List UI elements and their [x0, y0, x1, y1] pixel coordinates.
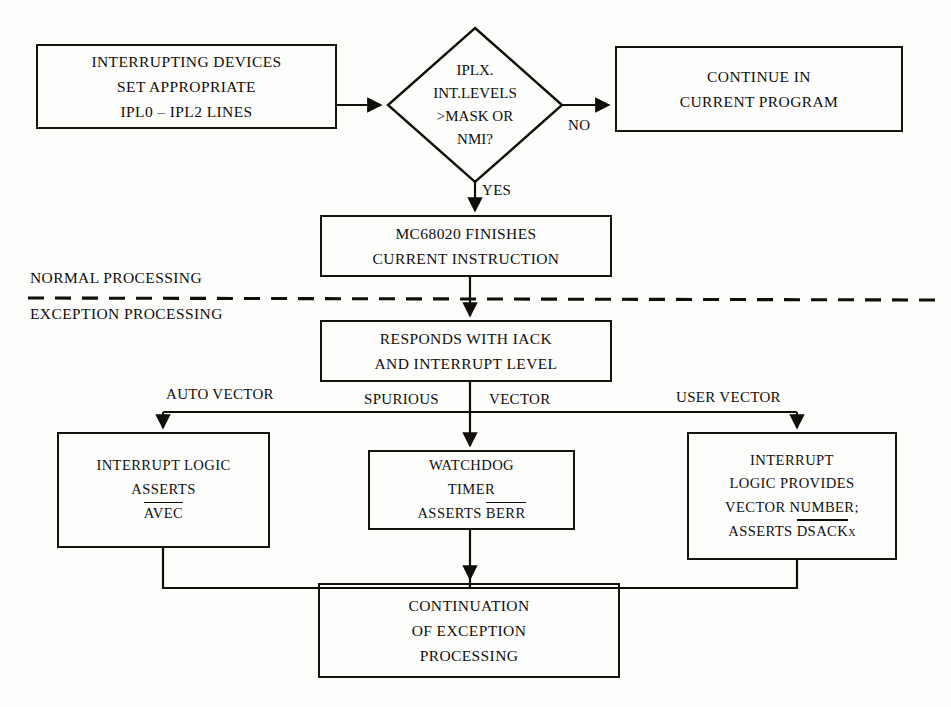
edge-label-yes: YES	[482, 182, 511, 199]
avec-overline-text: AVEC	[144, 501, 183, 525]
edge-label-user-vector: USER VECTOR	[676, 389, 781, 406]
node-line: CONTINUATION	[408, 593, 529, 618]
asserts-prefix: ASSERTS	[417, 505, 485, 521]
edge-label-vector: VECTOR	[489, 391, 551, 408]
node-line: MC68020 FINISHES	[395, 221, 536, 246]
edge-label-auto-vector: AUTO VECTOR	[166, 386, 274, 403]
node-decision-interrupt-level[interactable]: IPLX. INT.LEVELS >MASK OR NMI?	[388, 28, 562, 182]
node-line: INTERRUPT LOGIC	[96, 454, 230, 477]
node-interrupt-logic-provides-vector[interactable]: INTERRUPT LOGIC PROVIDES VECTOR NUMBER; …	[687, 432, 897, 560]
decision-label: IPLX. INT.LEVELS >MASK OR NMI?	[433, 59, 516, 150]
edge-label-spurious: SPURIOUS	[364, 391, 439, 408]
node-line: CURRENT INSTRUCTION	[373, 246, 560, 271]
node-continue-current-program[interactable]: CONTINUE IN CURRENT PROGRAM	[615, 46, 903, 132]
node-line: PROCESSING	[420, 643, 519, 668]
node-line: VECTOR NUMBER;	[725, 496, 859, 519]
node-line: OF EXCEPTION	[412, 618, 527, 643]
node-line: LOGIC PROVIDES	[729, 472, 854, 495]
node-line: INT.LEVELS	[433, 85, 516, 101]
node-line: INTERRUPTING DEVICES	[91, 49, 281, 74]
node-line: CURRENT PROGRAM	[680, 89, 839, 114]
node-line: NMI?	[457, 131, 493, 147]
node-line: IPLX.	[456, 62, 493, 78]
node-line: SET APPROPRIATE	[117, 74, 256, 99]
node-line: WATCHDOG	[429, 454, 514, 477]
node-line-overlined: AVEC	[144, 501, 183, 525]
zone-label-normal-processing: NORMAL PROCESSING	[30, 269, 202, 287]
node-line: ASSERTS	[131, 478, 195, 501]
zone-label-exception-processing: EXCEPTION PROCESSING	[30, 305, 223, 323]
node-interrupt-logic-asserts-avec[interactable]: INTERRUPT LOGIC ASSERTS AVEC	[57, 432, 270, 548]
node-line: INTERRUPT	[750, 449, 834, 472]
node-line: AND INTERRUPT LEVEL	[375, 351, 558, 376]
asserts-prefix: ASSERTS	[728, 523, 796, 539]
node-line: >MASK OR	[437, 108, 513, 124]
node-line: RESPONDS WITH IACK	[380, 326, 552, 351]
node-line: CONTINUE IN	[707, 64, 811, 89]
connector-auto-vector-to-merge	[163, 548, 470, 588]
node-interrupting-devices[interactable]: INTERRUPTING DEVICES SET APPROPRIATE IPL…	[36, 44, 337, 129]
node-line-overlined: ASSERTS BERR	[417, 501, 525, 525]
node-mc68020-finishes-instruction[interactable]: MC68020 FINISHES CURRENT INSTRUCTION	[320, 215, 612, 277]
dsack-overline-text: DSACK	[797, 519, 848, 543]
node-watchdog-timer-asserts-berr[interactable]: WATCHDOG TIMER ASSERTS BERR	[368, 450, 575, 530]
berr-overline-text: BERR	[486, 501, 526, 525]
dsack-suffix: x	[848, 523, 856, 539]
node-line: IPL0 – IPL2 LINES	[120, 99, 252, 124]
node-line-overlined: ASSERTS DSACKx	[728, 519, 856, 543]
edge-label-no: NO	[568, 117, 590, 134]
node-line: TIMER	[448, 478, 495, 501]
node-responds-with-iack[interactable]: RESPONDS WITH IACK AND INTERRUPT LEVEL	[320, 320, 612, 382]
node-continuation-of-exception-processing[interactable]: CONTINUATION OF EXCEPTION PROCESSING	[318, 583, 620, 678]
flowchart-canvas: INTERRUPTING DEVICES SET APPROPRIATE IPL…	[0, 0, 951, 707]
processing-boundary-dashed-line	[28, 298, 940, 300]
